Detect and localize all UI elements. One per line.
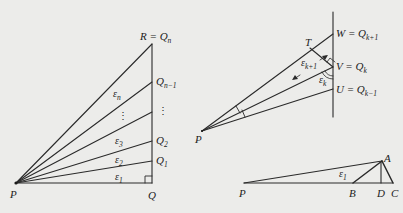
label-A: A [384,153,391,164]
label-P-top-right: P [195,134,202,145]
right-angle-marker [145,176,152,183]
segment-PU [202,89,333,131]
label-Q2: Q2 [156,135,168,149]
label-eps-k+1: εk+1 [301,58,317,71]
label-eps-k: εk [319,75,326,88]
segment-PW [202,34,333,131]
label-dots-right: ⋮ [158,106,168,116]
label-C: C [391,188,398,199]
tick-mark-1 [236,106,240,113]
label-P-left: P [10,189,17,200]
right-top-diagram [202,12,335,131]
label-eps-n: εn [113,89,121,102]
label-eps-1: ε1 [115,172,123,185]
right-bottom-diagram [244,161,393,183]
label-T: T [305,37,311,48]
label-eps-1-bottom: ε1 [339,169,347,182]
vertex-P-left [14,181,17,184]
label-Q1: Q1 [156,155,168,169]
segment-PA [244,161,382,183]
label-Q: Q [148,190,156,201]
segment-PV [202,67,333,131]
segment-AC [382,161,393,183]
label-B: B [349,188,356,199]
label-V-Qk: V = Qk [336,61,367,75]
label-eps-3: ε3 [115,136,123,149]
right-angle-marker-V [327,58,335,62]
arrow-down-head [292,75,298,80]
label-eps-2: ε2 [115,155,123,168]
label-R-Qn: R = Qn [140,31,171,45]
vertex-P-right [201,130,203,132]
segment-PQn-1 [16,82,152,183]
label-P-bottom: P [239,188,246,199]
segment-BA [353,161,382,183]
label-U-Qk-1: U = Qk−1 [336,84,377,98]
label-dots-mid: ⋮ [118,111,128,121]
label-Qn-1: Qn−1 [156,76,177,90]
left-fan-diagram [16,44,152,183]
label-D: D [377,188,385,199]
label-W-Qk+1: W = Qk+1 [336,28,378,42]
